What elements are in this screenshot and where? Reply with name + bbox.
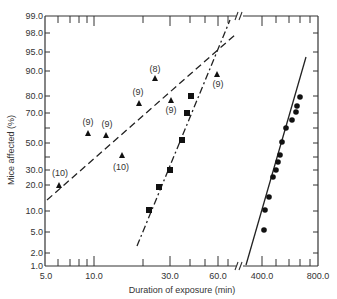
y-tick-label: 98.0 bbox=[25, 28, 43, 38]
point-label: (10) bbox=[113, 162, 129, 172]
y-tick-label: 30.0 bbox=[25, 165, 43, 175]
y-tick-label: 50.0 bbox=[25, 138, 43, 148]
triangle-fit-line bbox=[47, 34, 236, 200]
x-tick-label: 60.0 bbox=[209, 271, 227, 281]
axis-break-markers bbox=[235, 12, 242, 270]
chart: 99.0 98.0 95.0 90.0 80.0 70.0 50.0 30.0 … bbox=[0, 0, 337, 299]
point-label: (8) bbox=[150, 64, 161, 74]
y-tick-label: 2.0 bbox=[30, 248, 43, 258]
y-tick-label: 1.0 bbox=[30, 261, 43, 271]
y-tick-label: 20.0 bbox=[25, 180, 43, 190]
x-axis-label: Duration of exposure (min) bbox=[129, 285, 236, 295]
point-label: (10) bbox=[52, 168, 68, 178]
point-label: (9) bbox=[166, 105, 177, 115]
y-tick-label: 70.0 bbox=[25, 108, 43, 118]
x-tick-label: 400.0 bbox=[251, 271, 274, 281]
point-label: (9) bbox=[133, 87, 144, 97]
y-axis-label: Mice affected (%) bbox=[6, 115, 16, 185]
x-tick-label: 5.0 bbox=[40, 271, 53, 281]
y-tick-labels: 99.0 98.0 95.0 90.0 80.0 70.0 50.0 30.0 … bbox=[25, 11, 43, 271]
triangle-point-labels: (10) (9) (9) (10) (9) (8) (9) (9) bbox=[52, 64, 224, 178]
y-tick-label: 5.0 bbox=[30, 227, 43, 237]
point-label: (9) bbox=[213, 79, 224, 89]
y-tick-label: 99.0 bbox=[25, 11, 43, 21]
y-tick-label: 95.0 bbox=[25, 47, 43, 57]
point-label: (9) bbox=[102, 119, 113, 129]
y-tick-label: 90.0 bbox=[25, 66, 43, 76]
x-tick-labels: 5.0 10.0 30.0 60.0 400.0 800.0 bbox=[40, 271, 330, 281]
y-tick-label: 10.0 bbox=[25, 206, 43, 216]
x-tick-label: 30.0 bbox=[161, 271, 179, 281]
x-tick-label: 10.0 bbox=[85, 271, 103, 281]
y-tick-label: 80.0 bbox=[25, 91, 43, 101]
x-tick-label: 800.0 bbox=[307, 271, 330, 281]
point-label: (9) bbox=[83, 117, 94, 127]
circle-markers bbox=[261, 94, 303, 233]
